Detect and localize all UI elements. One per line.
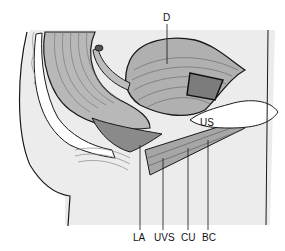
label-cu: CU: [181, 233, 195, 243]
pelvic-anatomy-diagram: [0, 0, 285, 251]
label-d: D: [163, 13, 170, 23]
label-uvs: UVS: [154, 233, 175, 243]
label-bc: BC: [202, 233, 216, 243]
label-us: US: [200, 118, 214, 128]
label-la: LA: [133, 233, 145, 243]
